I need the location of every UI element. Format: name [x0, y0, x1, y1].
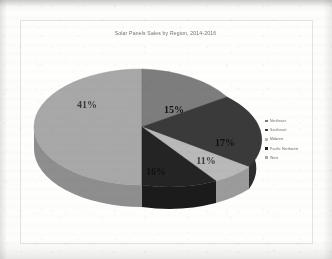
legend-label: West [270, 156, 278, 160]
legend-item-northeast[interactable]: Northeast [265, 119, 325, 123]
legend-label: Pacific Northwest [270, 147, 298, 151]
legend-item-midwest[interactable]: Midwest [265, 137, 325, 141]
legend-swatch-icon [265, 129, 268, 132]
pie-label-northeast: 15% [164, 104, 184, 115]
legend-swatch-icon [265, 120, 268, 123]
legend-item-pacific-northwest[interactable]: Pacific Northwest [265, 147, 325, 151]
pie-label-west: 41% [77, 99, 97, 110]
pie-label-midwest: 11% [196, 155, 215, 166]
legend-label: Midwest [270, 137, 283, 141]
legend-label: Southeast [270, 128, 286, 132]
page-shadow-left [0, 0, 7, 259]
pie-label-southeast: 17% [215, 137, 235, 148]
legend-label: Northeast [270, 119, 286, 123]
legend-swatch-icon [265, 156, 268, 159]
scanned-page: Solar Panels Sales by Region, 2014-2016 [0, 0, 332, 259]
page-shadow-top [0, 0, 332, 8]
pie-label-pacific-northwest: 16% [146, 166, 166, 177]
legend-swatch-icon [265, 138, 268, 141]
legend-item-southeast[interactable]: Southeast [265, 128, 325, 132]
legend-item-west[interactable]: West [265, 156, 325, 160]
chart-legend: Northeast Southeast Midwest Pacific Nort… [265, 119, 325, 165]
legend-swatch-icon [265, 147, 268, 150]
